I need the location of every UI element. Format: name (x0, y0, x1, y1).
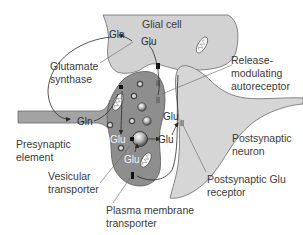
autoreceptor-label-3: autoreceptor (231, 80, 290, 92)
plasma-membrane-transporter-label-2: transporter (106, 217, 157, 229)
postsynaptic-neuron-label-1: Postsynaptic (232, 132, 292, 144)
presynaptic-terminal-shape (107, 72, 165, 186)
plasma-membrane-transporter-label-1: Plasma membrane (106, 204, 194, 216)
presynaptic-element-label-2: element (16, 151, 53, 163)
plasma-membrane-transporter-marker (131, 172, 134, 179)
postsynaptic-glu-receptor-label-1: Postsynaptic Glu (207, 173, 286, 185)
glu-vesicle-label: Glu (110, 134, 126, 145)
vesicular-transporter-label-2: transporter (48, 183, 99, 195)
gln-glial-label: Gln (109, 29, 125, 40)
vesicular-transporter-marker (130, 137, 134, 141)
vesicular-transporter-label-1: Vesicular (48, 170, 91, 182)
postsynaptic-glu-receptor-label-2: receptor (207, 186, 246, 198)
glu-lower-label: Glu (124, 154, 140, 165)
glutamate-synthase-label-2: synthase (50, 73, 92, 85)
postsynaptic-neuron-label-2: neuron (232, 145, 265, 157)
enzyme-marker (119, 85, 123, 89)
autoreceptor-label-2: modulating (231, 67, 282, 79)
glial-cell-label: Glial cell (142, 18, 182, 30)
vesicle-releasing (133, 132, 148, 147)
glu-cleft-upper-label: Glu (163, 111, 179, 122)
glu-cleft-lower-label: Glu (158, 134, 174, 145)
presynaptic-axon-shape (18, 100, 113, 134)
gln-presynaptic-label: Gln (77, 116, 93, 127)
glu-glial-label: Glu (141, 36, 157, 47)
glutamate-synthase-label-1: Glutamate (50, 60, 98, 72)
autoreceptor-label-1: Release- (231, 54, 273, 66)
presynaptic-element-label-1: Presynaptic (16, 138, 71, 150)
